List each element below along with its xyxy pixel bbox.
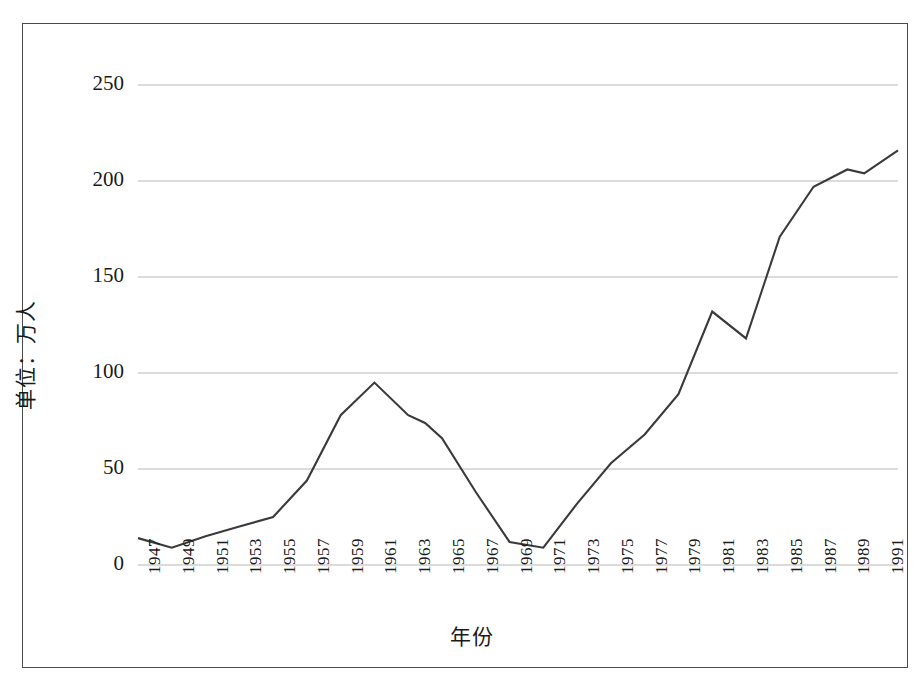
x-tick-label: 1963	[415, 538, 435, 574]
x-tick-label: 1947	[145, 538, 165, 574]
x-tick-label: 1955	[280, 538, 300, 574]
x-tick-label: 1979	[685, 538, 705, 574]
y-tick-label: 50	[54, 455, 124, 480]
x-tick-label: 1987	[821, 538, 841, 574]
x-tick-label: 1971	[550, 538, 570, 574]
x-tick-label: 1969	[517, 538, 537, 574]
y-tick-label: 200	[54, 167, 124, 192]
x-tick-label: 1985	[787, 538, 807, 574]
y-tick-label: 250	[54, 71, 124, 96]
x-tick-label: 1973	[584, 538, 604, 574]
x-tick-label: 1951	[213, 538, 233, 574]
x-axis-title: 年份	[412, 620, 532, 650]
x-tick-label: 1991	[888, 538, 908, 574]
x-tick-label: 1959	[348, 538, 368, 574]
x-tick-label: 1957	[314, 538, 334, 574]
y-tick-label: 100	[54, 359, 124, 384]
series-line-path	[138, 150, 898, 547]
x-tick-label: 1977	[652, 538, 672, 574]
x-tick-label: 1989	[854, 538, 874, 574]
x-tick-label: 1983	[753, 538, 773, 574]
x-tick-label: 1981	[719, 538, 739, 574]
x-tick-label: 1967	[483, 538, 503, 574]
y-tick-label: 150	[54, 263, 124, 288]
data-series-line	[138, 150, 898, 547]
x-tick-label: 1961	[381, 538, 401, 574]
x-tick-label: 1965	[449, 538, 469, 574]
x-tick-label: 1953	[246, 538, 266, 574]
y-axis-title: 单位：万人	[9, 275, 39, 435]
chart-figure: 050100150200250 194719491951195319551957…	[0, 0, 924, 692]
y-tick-label: 0	[54, 551, 124, 576]
x-tick-label: 1949	[179, 538, 199, 574]
line-chart-plot	[0, 0, 924, 692]
x-tick-label: 1975	[618, 538, 638, 574]
gridlines	[138, 85, 898, 565]
